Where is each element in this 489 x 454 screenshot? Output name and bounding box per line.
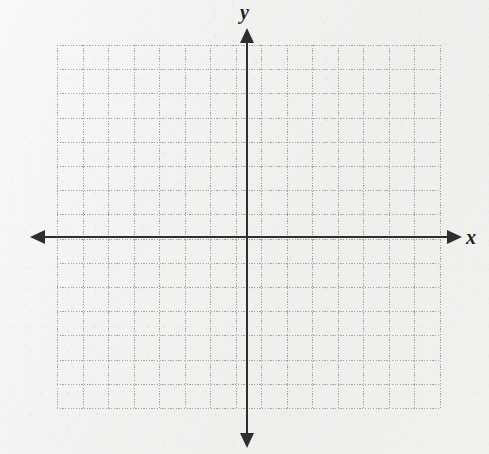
- grid-line-vertical: [159, 45, 160, 408]
- grid-line-vertical: [108, 45, 109, 408]
- graph-paper-figure: x y: [0, 0, 489, 454]
- grid-line-vertical: [83, 45, 84, 408]
- arrow-down-icon: [240, 433, 254, 448]
- coordinate-grid: [57, 45, 440, 408]
- grid-line-vertical: [312, 45, 313, 408]
- grid-line-vertical: [210, 45, 211, 408]
- grid-line-vertical: [389, 45, 390, 408]
- grid-line-vertical: [134, 45, 135, 408]
- grid-line-vertical: [414, 45, 415, 408]
- grid-line-vertical: [287, 45, 288, 408]
- grid-vertical-lines: [57, 45, 440, 408]
- grid-line-vertical: [363, 45, 364, 408]
- grid-line-vertical: [261, 45, 262, 408]
- arrow-left-icon: [30, 230, 45, 244]
- y-axis-label: y: [240, 2, 249, 22]
- arrow-right-icon: [447, 230, 462, 244]
- grid-line-horizontal: [57, 408, 440, 409]
- grid-line-vertical: [185, 45, 186, 408]
- grid-line-vertical: [236, 45, 237, 408]
- x-axis-label: x: [466, 227, 476, 247]
- y-axis: [246, 41, 248, 435]
- grid-line-vertical: [338, 45, 339, 408]
- grid-line-vertical: [57, 45, 58, 408]
- grid-line-vertical: [440, 45, 441, 408]
- arrow-up-icon: [240, 28, 254, 43]
